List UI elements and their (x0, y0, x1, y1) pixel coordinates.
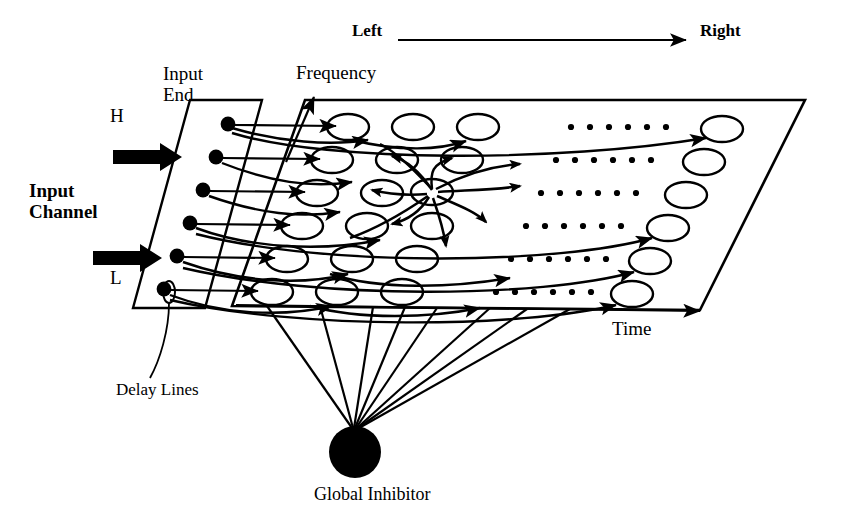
oscillator (665, 182, 707, 208)
global-inhibitor-connections (267, 306, 570, 428)
input-channel-label-line1: Input (29, 181, 98, 202)
network-diagram (0, 0, 842, 520)
frequency-axis-label: Frequency (296, 63, 376, 84)
low-channel-label: L (110, 268, 122, 289)
input-node-dot (183, 216, 198, 231)
high-channel-label: H (110, 106, 124, 127)
global-inhibitor-node (329, 426, 381, 478)
input-arrow-low (93, 244, 162, 272)
input-node-dot (170, 249, 185, 264)
hub-arrow (437, 196, 486, 222)
input-end-label-line1: Input (163, 64, 203, 85)
input-channel-label-line2: Channel (29, 202, 98, 223)
input-node-dot (196, 183, 211, 198)
oscillator (411, 213, 453, 239)
axis-label-right: Right (700, 22, 741, 40)
delay-lines-label: Delay Lines (116, 381, 199, 399)
input-end-label-line2: End (163, 85, 203, 106)
input-channel-label: Input Channel (29, 181, 98, 222)
oscillator (611, 281, 653, 307)
lateral-connection (183, 262, 348, 281)
row-ellipsis-dots (568, 124, 669, 130)
oscillator (457, 114, 499, 140)
oscillator (346, 213, 388, 239)
time-axis-label: Time (612, 319, 651, 340)
hub-arrow (372, 190, 427, 195)
figure-canvas: Left Right Input End Frequency H L Input… (0, 0, 842, 520)
lateral-connection (232, 133, 706, 156)
lateral-connection (352, 140, 466, 148)
oscillator (701, 116, 743, 142)
axis-label-left: Left (352, 22, 382, 40)
oscillator (647, 215, 689, 241)
row-ellipsis-dots (538, 190, 639, 196)
oscillator (392, 114, 434, 140)
oscillator (316, 279, 358, 305)
row-ellipsis-dots (553, 157, 654, 163)
input-node-dot (209, 150, 224, 165)
oscillator (683, 149, 725, 175)
global-inhibitor-label: Global Inhibitor (314, 485, 430, 504)
oscillator (331, 246, 373, 272)
input-end-label: Input End (163, 64, 203, 105)
oscillator (629, 248, 671, 274)
row-ellipsis-dots (523, 223, 624, 229)
frequency-axis-arrow (286, 97, 314, 162)
